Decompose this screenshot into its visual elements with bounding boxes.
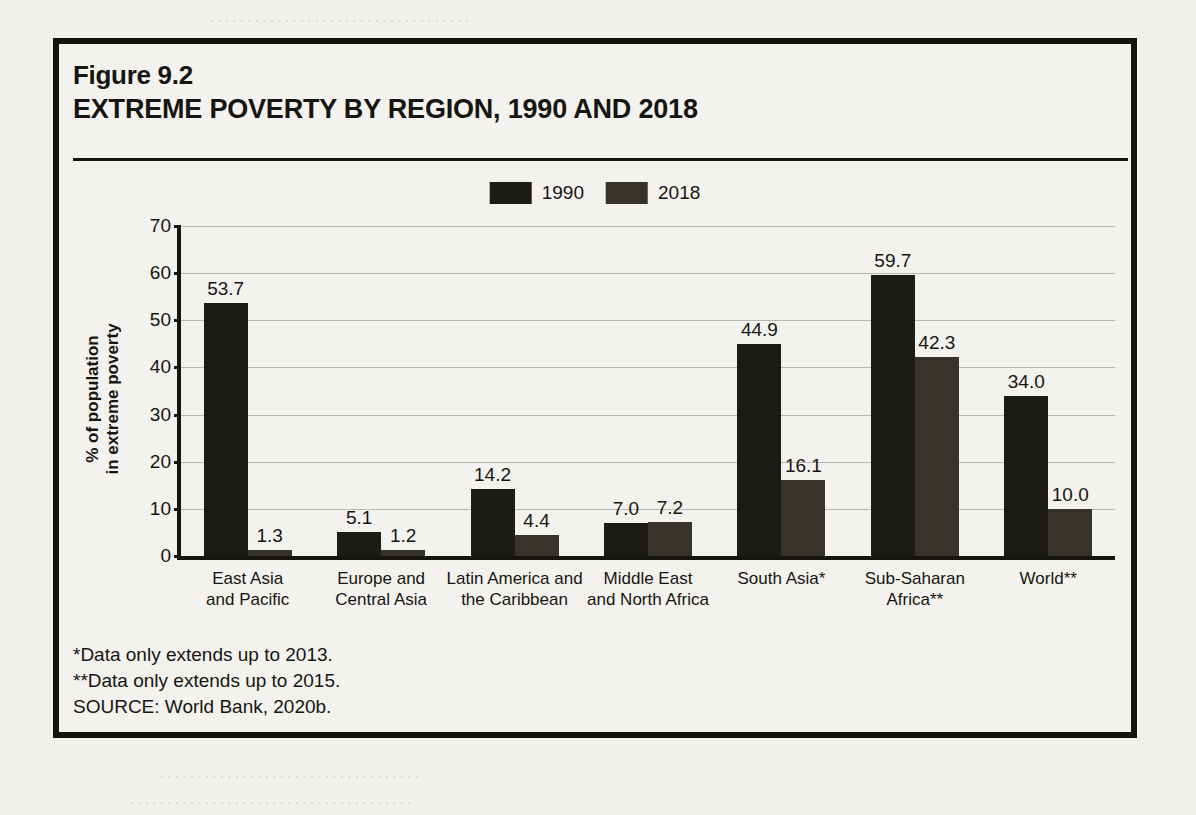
y-axis-title-line1: % of population xyxy=(83,279,103,519)
x-axis-category-label-line: East Asia xyxy=(206,568,289,589)
y-axis-tick-mark xyxy=(174,225,181,228)
bar-value-label: 42.3 xyxy=(918,332,955,354)
bar-value-label: 4.4 xyxy=(523,510,549,532)
y-axis-tick-label: 40 xyxy=(150,356,171,378)
y-axis-title-line2: in extreme poverty xyxy=(103,279,123,519)
x-axis-category-label: Europe andCentral Asia xyxy=(335,568,427,610)
legend-item-2018: 2018 xyxy=(606,182,700,204)
bar-2018: 4.4 xyxy=(515,535,559,556)
bar-2018: 10.0 xyxy=(1048,509,1092,556)
bar-group: 44.916.1South Asia* xyxy=(715,226,848,556)
x-axis-category-label-line: Middle East xyxy=(587,568,709,589)
bar-1990: 53.7 xyxy=(204,303,248,556)
bar-2018: 42.3 xyxy=(915,357,959,556)
bar-1990: 7.0 xyxy=(604,523,648,556)
y-axis-tick-label: 50 xyxy=(150,309,171,331)
bar-group: 34.010.0World** xyxy=(982,226,1115,556)
bar-group: 59.742.3Sub-SaharanAfrica** xyxy=(848,226,981,556)
figure-title: EXTREME POVERTY BY REGION, 1990 AND 2018 xyxy=(73,94,698,125)
x-axis-category-label: Middle Eastand North Africa xyxy=(587,568,709,610)
bar-2018: 1.2 xyxy=(381,550,425,556)
x-axis-category-label: East Asiaand Pacific xyxy=(206,568,289,610)
bar-2018: 1.3 xyxy=(248,550,292,556)
note-asterisk-1: *Data only extends up to 2013. xyxy=(73,642,340,668)
x-axis-category-label: South Asia* xyxy=(737,568,825,589)
bar-group: 14.24.4Latin America andthe Caribbean xyxy=(448,226,581,556)
bar-1990: 5.1 xyxy=(337,532,381,556)
x-axis-category-label-line: and North Africa xyxy=(587,589,709,610)
bar-value-label: 34.0 xyxy=(1008,371,1045,393)
bar-value-label: 53.7 xyxy=(207,278,244,300)
bar-2018: 7.2 xyxy=(648,522,692,556)
bar-value-label: 44.9 xyxy=(741,319,778,341)
bar-value-label: 59.7 xyxy=(874,250,911,272)
y-axis-tick-label: 0 xyxy=(160,545,171,567)
y-axis-tick-mark xyxy=(174,508,181,511)
y-axis-tick-mark xyxy=(174,461,181,464)
x-axis-category-label-line: World** xyxy=(1020,568,1077,589)
x-axis-category-label-line: South Asia* xyxy=(737,568,825,589)
title-divider xyxy=(73,158,1128,161)
bar-1990: 14.2 xyxy=(471,489,515,556)
chart-container: % of population in extreme poverty 1990 … xyxy=(59,174,1131,614)
bar-1990: 59.7 xyxy=(871,275,915,556)
y-axis-tick-label: 20 xyxy=(150,451,171,473)
legend-swatch-2018 xyxy=(606,182,648,204)
y-axis-tick-mark xyxy=(174,366,181,369)
bar-group: 53.71.3East Asiaand Pacific xyxy=(181,226,314,556)
bar-value-label: 7.2 xyxy=(657,497,683,519)
bar-value-label: 1.2 xyxy=(390,525,416,547)
figure-number: Figure 9.2 xyxy=(73,60,193,91)
x-axis-category-label: World** xyxy=(1020,568,1077,589)
x-axis-category-label-line: and Pacific xyxy=(206,589,289,610)
y-axis-tick-mark xyxy=(174,272,181,275)
bar-value-label: 16.1 xyxy=(785,455,822,477)
figure-frame: Figure 9.2 EXTREME POVERTY BY REGION, 19… xyxy=(53,38,1137,738)
y-axis-tick-mark xyxy=(174,555,181,558)
y-axis-title: % of population in extreme poverty xyxy=(83,279,123,519)
x-axis-category-label-line: Latin America and xyxy=(447,568,583,589)
chart-legend: 1990 2018 xyxy=(490,182,701,204)
bar-value-label: 10.0 xyxy=(1052,484,1089,506)
bar-group: 7.07.2Middle Eastand North Africa xyxy=(581,226,714,556)
legend-label-2018: 2018 xyxy=(658,182,700,204)
y-axis-tick-mark xyxy=(174,319,181,322)
x-axis-category-label: Sub-SaharanAfrica** xyxy=(865,568,965,610)
legend-swatch-1990 xyxy=(490,182,532,204)
y-axis-tick-label: 60 xyxy=(150,262,171,284)
legend-label-1990: 1990 xyxy=(542,182,584,204)
bar-value-label: 1.3 xyxy=(256,525,282,547)
x-axis-category-label-line: the Caribbean xyxy=(447,589,583,610)
bar-groups: 53.71.3East Asiaand Pacific5.11.2Europe … xyxy=(181,226,1115,556)
bar-1990: 44.9 xyxy=(737,344,781,556)
plot-area: 010203040506070 53.71.3East Asiaand Paci… xyxy=(177,226,1115,560)
x-axis-category-label: Latin America andthe Caribbean xyxy=(447,568,583,610)
bar-1990: 34.0 xyxy=(1004,396,1048,556)
y-axis-tick-label: 30 xyxy=(150,404,171,426)
x-axis-category-label-line: Africa** xyxy=(865,589,965,610)
x-axis-category-label-line: Europe and xyxy=(335,568,427,589)
bar-value-label: 7.0 xyxy=(613,498,639,520)
legend-item-1990: 1990 xyxy=(490,182,584,204)
bar-value-label: 14.2 xyxy=(474,464,511,486)
y-axis-tick-mark xyxy=(174,414,181,417)
bar-value-label: 5.1 xyxy=(346,507,372,529)
y-axis-tick-label: 10 xyxy=(150,498,171,520)
note-asterisk-2: **Data only extends up to 2015. xyxy=(73,668,340,694)
figure-notes: *Data only extends up to 2013. **Data on… xyxy=(73,642,340,720)
x-axis-category-label-line: Sub-Saharan xyxy=(865,568,965,589)
bar-2018: 16.1 xyxy=(781,480,825,556)
note-source: SOURCE: World Bank, 2020b. xyxy=(73,694,340,720)
y-axis-tick-label: 70 xyxy=(150,215,171,237)
x-axis-category-label-line: Central Asia xyxy=(335,589,427,610)
bar-group: 5.11.2Europe andCentral Asia xyxy=(314,226,447,556)
